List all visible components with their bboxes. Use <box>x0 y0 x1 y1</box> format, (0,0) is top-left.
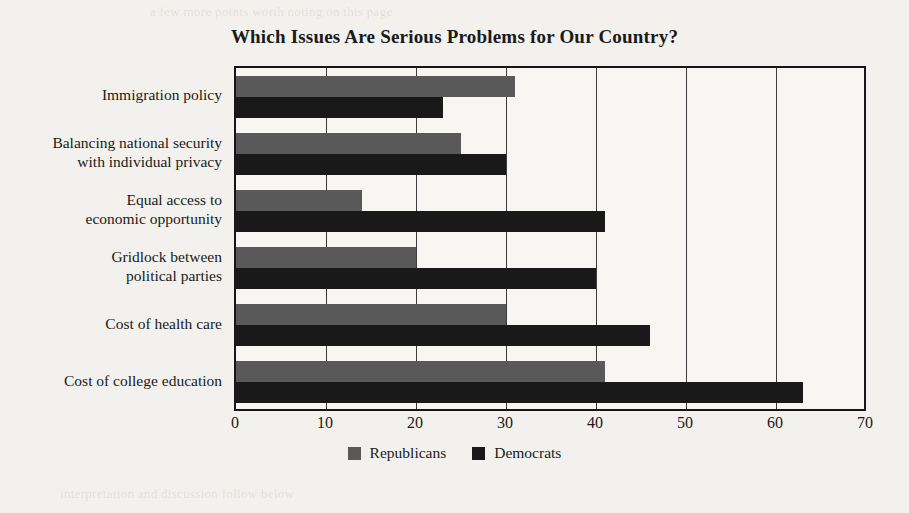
y-axis-label: Immigration policy <box>102 85 222 104</box>
x-axis-tick-20: 20 <box>407 414 423 432</box>
bar-democrats <box>236 268 596 289</box>
bar-democrats <box>236 382 803 403</box>
bar-republicans <box>236 361 605 382</box>
x-axis-tick-50: 50 <box>677 414 693 432</box>
x-axis-tick-40: 40 <box>587 414 603 432</box>
legend-swatch-icon <box>472 447 485 460</box>
bar-group <box>236 354 864 411</box>
bar-chart-figure: Which Issues Are Serious Problems for Ou… <box>0 0 909 513</box>
x-axis-tick-0: 0 <box>231 414 239 432</box>
bar-group <box>236 125 864 182</box>
bar-democrats <box>236 211 605 232</box>
x-axis-tick-10: 10 <box>317 414 333 432</box>
legend-item-republicans[interactable]: Republicans <box>348 444 447 462</box>
legend-swatch-icon <box>348 447 361 460</box>
y-axis-label: Equal access to economic opportunity <box>86 190 222 228</box>
bar-democrats <box>236 97 443 118</box>
bar-republicans <box>236 247 416 268</box>
x-axis-tick-labels: 010203040506070 <box>234 414 866 440</box>
bar-group <box>236 68 864 125</box>
y-axis-label: Balancing national security with individ… <box>52 133 222 171</box>
bar-group <box>236 182 864 239</box>
y-axis-category-labels: Immigration policyBalancing national sec… <box>0 66 228 411</box>
bar-republicans <box>236 190 362 211</box>
bar-democrats <box>236 154 506 175</box>
legend-item-democrats[interactable]: Democrats <box>472 444 561 462</box>
x-axis-tick-60: 60 <box>767 414 783 432</box>
bar-republicans <box>236 304 506 325</box>
bar-democrats <box>236 325 650 346</box>
y-axis-label: Gridlock between political parties <box>111 247 222 285</box>
x-axis-tick-70: 70 <box>857 414 873 432</box>
chart-legend: RepublicansDemocrats <box>0 444 909 462</box>
bar-group <box>236 297 864 354</box>
y-axis-label: Cost of health care <box>105 314 222 333</box>
bar-republicans <box>236 133 461 154</box>
legend-label: Democrats <box>494 444 561 462</box>
chart-title: Which Issues Are Serious Problems for Ou… <box>0 26 909 48</box>
legend-label: Republicans <box>370 444 447 462</box>
y-axis-label: Cost of college education <box>64 371 222 390</box>
bar-republicans <box>236 76 515 97</box>
x-axis-tick-30: 30 <box>497 414 513 432</box>
plot-area <box>234 66 866 411</box>
bar-group <box>236 240 864 297</box>
